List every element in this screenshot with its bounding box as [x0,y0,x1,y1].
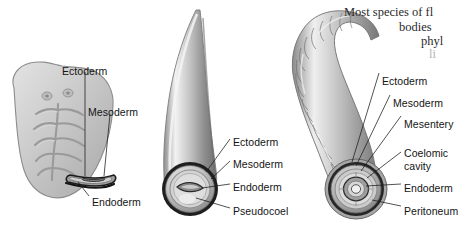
body-text-line-4: li [429,47,436,62]
label-earthworm-coelomic-cavity-line1: Coelomic [404,148,448,159]
body-text-line-1: Most species of fl [344,5,433,20]
label-roundworm-ectoderm: Ectoderm [233,137,278,148]
label-roundworm-mesoderm: Mesoderm [233,159,283,170]
label-flatworm-ectoderm: Ectoderm [62,66,107,77]
label-flatworm-mesoderm: Mesoderm [88,107,138,118]
label-flatworm-endoderm: Endoderm [92,197,141,208]
label-earthworm-coelomic-cavity-line2: cavity [404,161,431,172]
label-roundworm-pseudocoel: Pseudocoel [233,206,288,217]
label-earthworm-peritoneum: Peritoneum [404,206,458,217]
anatomy-illustrations [0,0,465,232]
earthworm-illustration [292,11,387,219]
roundworm-illustration [162,10,218,216]
body-text-line-2: bodies [399,20,432,35]
label-roundworm-endoderm: Endoderm [233,182,282,193]
figure-body-plans-of-worms: Ectoderm Mesoderm Endoderm Ectoderm Meso… [0,0,465,232]
label-earthworm-endoderm: Endoderm [404,183,453,194]
label-earthworm-ectoderm: Ectoderm [382,76,427,87]
label-earthworm-mesoderm: Mesoderm [393,98,443,109]
flatworm-illustration [13,62,116,198]
label-earthworm-mesentery: Mesentery [404,119,453,130]
